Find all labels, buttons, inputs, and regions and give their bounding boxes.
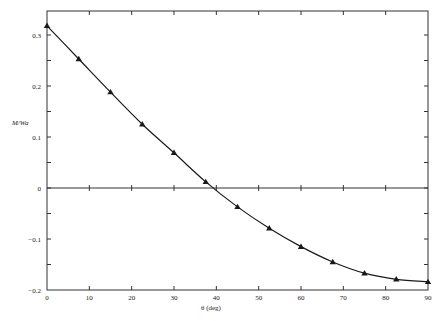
triangle-marker: [266, 225, 272, 230]
triangle-marker: [44, 23, 50, 28]
y-tick-label: −0.1: [28, 236, 41, 244]
plot-border: [47, 11, 428, 290]
y-tick-label: 0.1: [32, 134, 41, 142]
x-tick-label: 20: [128, 294, 136, 302]
x-tick-label: 50: [255, 294, 263, 302]
series-line: [47, 26, 428, 282]
data-series: [44, 23, 431, 284]
y-tick-label: 0.3: [32, 32, 41, 40]
x-tick-label: 90: [425, 294, 433, 302]
x-tick-label: 70: [340, 294, 348, 302]
x-tick-label: 0: [45, 294, 49, 302]
chart: 0102030405060708090−0.2−0.100.10.20.3 M/…: [0, 0, 442, 321]
y-tick-label: 0: [38, 185, 42, 193]
x-tick-label: 40: [213, 294, 221, 302]
triangle-marker: [298, 243, 304, 248]
x-tick-label: 10: [86, 294, 94, 302]
x-tick-label: 60: [298, 294, 306, 302]
y-axis-label: M/Wa: [11, 119, 29, 127]
x-tick-label: 30: [171, 294, 179, 302]
x-tick-label: 80: [382, 294, 390, 302]
y-tick-label: −0.2: [28, 287, 41, 295]
axis-tick-labels: 0102030405060708090−0.2−0.100.10.20.3: [28, 32, 432, 303]
y-tick-label: 0.2: [32, 83, 41, 91]
axis-ticks: [47, 11, 428, 290]
plot-frame: [47, 11, 428, 290]
x-axis-label: θ (deg): [201, 304, 222, 312]
